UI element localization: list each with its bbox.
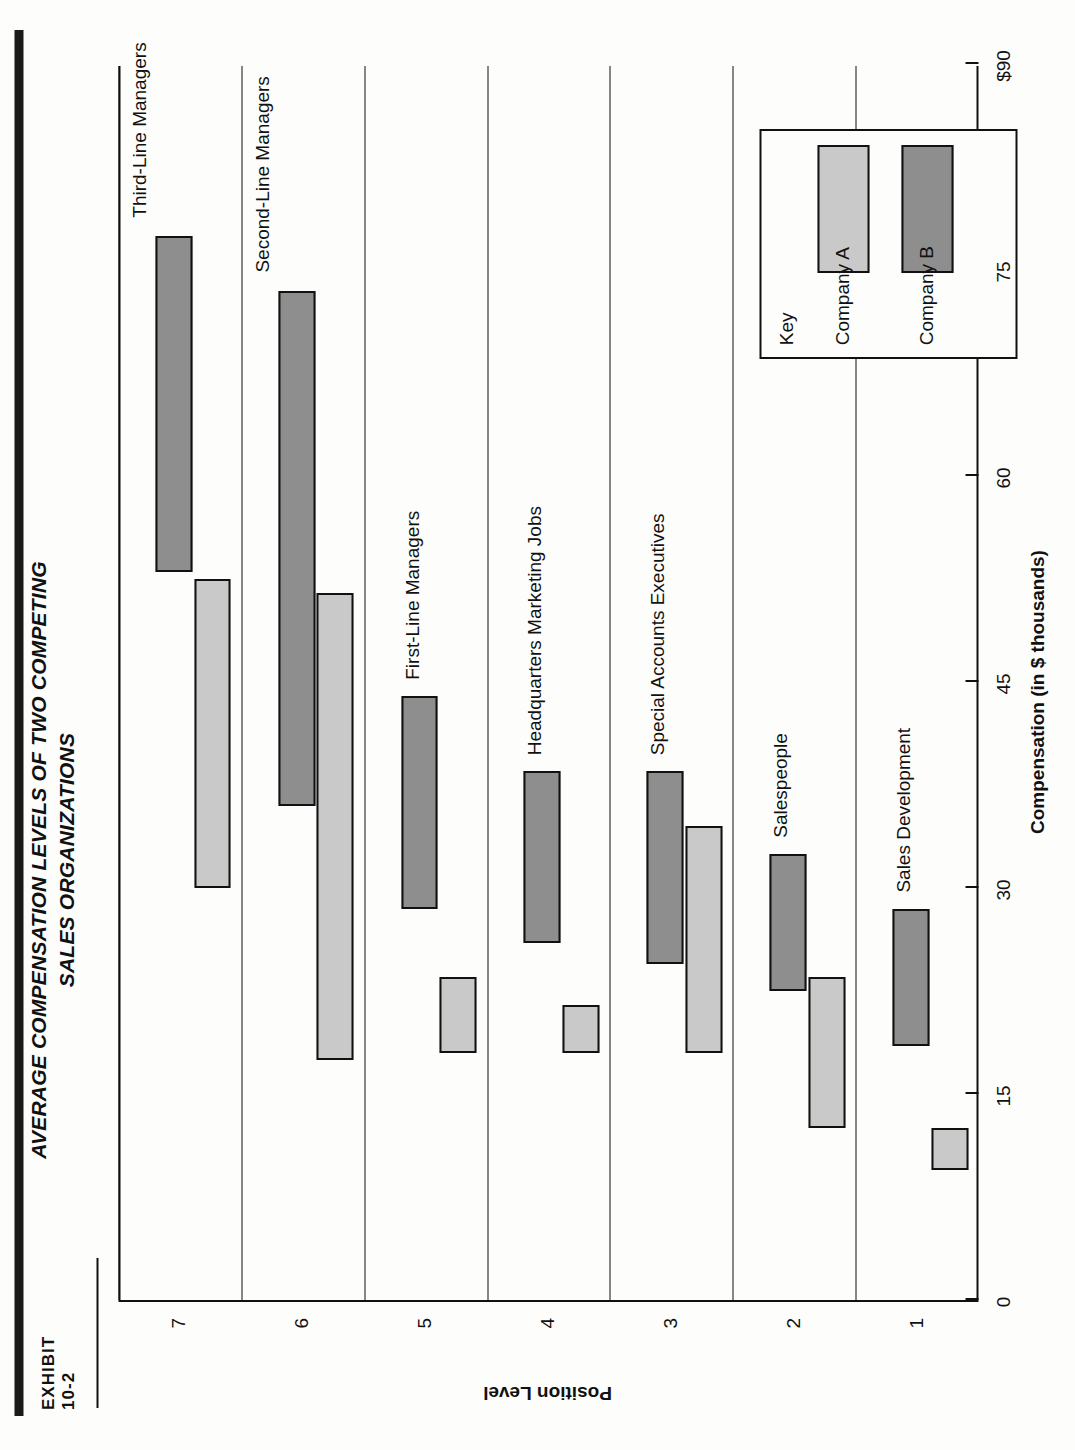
x-tick-mark-45 [965,680,978,682]
y-tick-label-1: 1 [905,1318,927,1358]
x-tick-label-15: 15 [992,1066,1014,1126]
bar-company-b-level-1 [892,909,929,1046]
bar-company-a-level-6 [316,593,353,1060]
x-tick-label-0: 0 [992,1272,1014,1332]
x-tick-mark-15 [965,1092,978,1094]
plot-band-level-5 [364,66,487,1300]
x-tick-mark-0 [965,1298,978,1300]
y-tick-label-5: 5 [413,1318,435,1358]
y-tick-label-3: 3 [659,1318,681,1358]
x-tick-label-60: 60 [992,448,1014,508]
x-axis-label: Compensation (in $ thousands) [1026,550,1048,834]
x-tick-mark-30 [965,886,978,888]
page-edge-rule [14,30,23,1416]
bar-company-b-level-7 [155,236,192,572]
y-tick-label-7: 7 [167,1318,189,1358]
bar-company-a-level-2 [808,977,845,1128]
plot-area: Sales DevelopmentSalespeopleSpecial Acco… [118,66,978,1302]
legend-label-b: Company B [915,246,937,345]
x-tick-label-30: 30 [992,860,1014,920]
x-tick-label-90: $90 [992,36,1014,96]
plot-band-level-3 [609,66,732,1300]
y-tick-label-6: 6 [290,1318,312,1358]
band-label-level-3: Special Accounts Executives [646,513,668,755]
chart-title: AVERAGE COMPENSATION LEVELS OF TWO COMPE… [24,480,79,1240]
bar-company-a-level-7 [194,579,231,888]
bar-company-a-level-5 [439,977,476,1053]
figure-stage: EXHIBIT 10-2 AVERAGE COMPENSATION LEVELS… [0,0,1075,1450]
bar-company-a-level-1 [931,1128,968,1169]
plot-band-level-4 [487,66,610,1300]
legend-box [759,129,1017,359]
band-label-level-5: First-Line Managers [401,511,423,680]
bar-company-b-level-2 [769,854,806,991]
bar-company-b-level-3 [646,771,683,963]
plot-frame: Sales DevelopmentSalespeopleSpecial Acco… [118,66,978,1302]
chart-title-line-1: AVERAGE COMPENSATION LEVELS OF TWO COMPE… [24,480,52,1240]
band-label-level-1: Sales Development [892,728,914,893]
x-tick-label-75: 75 [992,242,1014,302]
bar-company-a-level-4 [562,1005,599,1053]
band-label-level-4: Headquarters Marketing Jobs [523,506,545,755]
bar-company-b-level-5 [401,696,438,909]
band-label-level-2: Salespeople [769,733,791,838]
chart-title-line-2: SALES ORGANIZATIONS [52,480,80,1240]
y-tick-label-4: 4 [536,1318,558,1358]
x-tick-label-45: 45 [992,654,1014,714]
legend-title: Key [775,313,797,346]
legend-label-a: Company A [831,247,853,345]
band-label-level-6: Second-Line Managers [251,76,273,272]
y-tick-label-2: 2 [782,1318,804,1358]
bar-company-b-level-4 [523,771,560,943]
x-tick-mark-60 [965,474,978,476]
exhibit-divider [96,1258,98,1408]
bar-company-b-level-6 [278,291,315,806]
y-axis-label: Position Level [483,1382,612,1404]
band-label-level-7: Third-Line Managers [128,42,150,217]
x-tick-mark-90 [965,62,978,64]
bar-company-a-level-3 [685,826,722,1053]
